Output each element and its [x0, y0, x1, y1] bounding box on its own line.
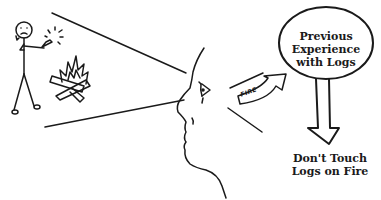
outcome-text: Don't Touch Logs on Fire	[285, 152, 375, 178]
campfire-icon	[50, 56, 90, 102]
memory-line-2: Experience	[284, 43, 368, 56]
outcome-line-2: Logs on Fire	[285, 165, 375, 178]
diagram-canvas: FIRE Previous Experience with Logs Don't…	[0, 0, 381, 200]
down-arrow-icon	[308, 79, 339, 144]
outcome-line-1: Don't Touch	[285, 152, 375, 165]
face-profile-icon	[177, 48, 226, 198]
memory-line-1: Previous	[284, 30, 368, 43]
memory-line-3: with Logs	[284, 56, 368, 69]
memory-bubble-text: Previous Experience with Logs	[284, 30, 368, 69]
